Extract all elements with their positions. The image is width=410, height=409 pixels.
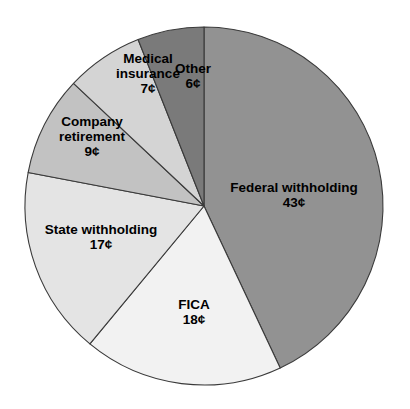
pie-label-value-company-retirement: 9¢ — [84, 144, 100, 159]
pie-label-value-federal-withholding: 43¢ — [283, 194, 306, 209]
pie-label-value-fica: 18¢ — [183, 311, 206, 326]
pie-label-value-other: 6¢ — [185, 75, 201, 90]
pie-label-text-company-retirement: Company — [61, 114, 123, 129]
pie-label-value-state-withholding: 17¢ — [90, 236, 113, 251]
pie-chart: Federal withholding43¢FICA18¢State withh… — [0, 0, 410, 409]
pie-label-text-fica: FICA — [178, 296, 210, 311]
pie-chart-svg: Federal withholding43¢FICA18¢State withh… — [0, 0, 410, 409]
pie-label-text-medical-insurance: insurance — [116, 66, 180, 81]
pie-label-fica: FICA18¢ — [178, 296, 210, 326]
pie-label-value-medical-insurance: 7¢ — [140, 81, 156, 96]
pie-label-text-medical-insurance: Medical — [123, 51, 173, 66]
pie-label-text-company-retirement: retirement — [59, 129, 126, 144]
pie-label-text-other: Other — [175, 60, 212, 75]
pie-slices-group — [25, 27, 383, 385]
pie-label-text-federal-withholding: Federal withholding — [230, 179, 358, 194]
pie-label-text-state-withholding: State withholding — [45, 221, 158, 236]
